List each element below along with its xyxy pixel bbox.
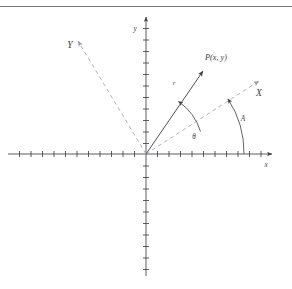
polar-coordinate-diagram: x [0, 0, 292, 289]
theta-arc-path [179, 102, 201, 132]
figure-root: x [0, 0, 292, 289]
x-axis-label: x [263, 161, 268, 169]
angle-a-arc-path [228, 99, 244, 154]
rotated-x-axis-label: X [255, 87, 263, 98]
rotated-y-axis-ray: Y [67, 39, 146, 154]
y-axis-label: y [132, 25, 137, 33]
angle-a-arc: A [228, 99, 246, 154]
theta-label: θ [192, 133, 196, 141]
point-p-label: P(x, y) [204, 53, 227, 62]
radius-ray: r P(x, y) [146, 53, 227, 154]
y-axis-group: y [132, 17, 149, 276]
rotated-x-axis-ray: X [146, 81, 263, 154]
x-axis-group: x [8, 151, 272, 169]
rotated-y-axis-line [78, 41, 146, 154]
radius-label: r [173, 79, 176, 87]
angle-a-label: A [240, 115, 246, 123]
rotated-y-axis-label: Y [67, 39, 74, 50]
